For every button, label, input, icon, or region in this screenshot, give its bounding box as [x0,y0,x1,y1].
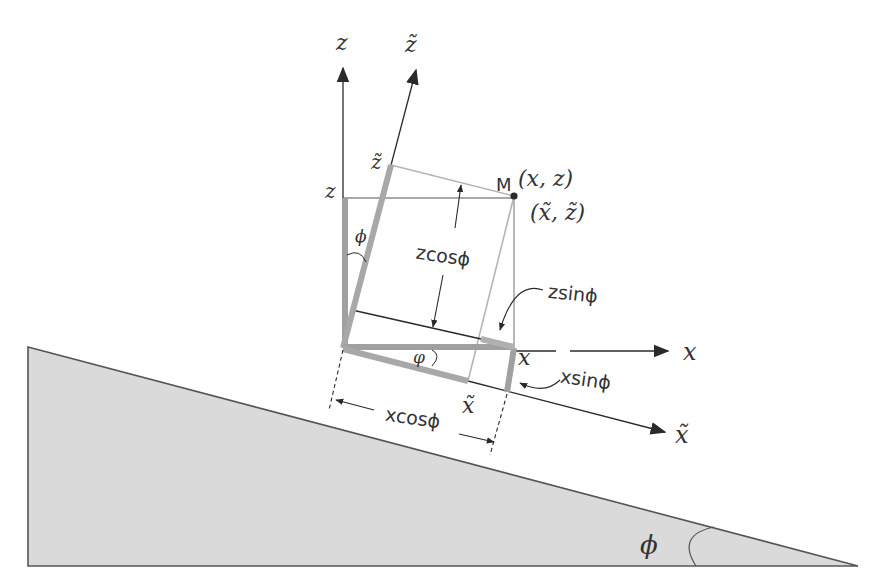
phi-top-label: ϕ [355,226,367,246]
x-point-label: x [518,345,531,370]
rotated-right-line [468,196,514,381]
z-cos-arrow-up [455,185,461,228]
M-coords-tilde-label: (x̃, z̃) [530,200,585,225]
z-sin-reference-line [352,310,481,339]
x-cos-phi-label: xcosϕ [384,403,442,432]
x-sin-phi-label: xsinϕ [559,365,613,394]
phi-bottom-label: φ [413,347,425,367]
x-tilde-axis-label: x̃ [675,421,689,449]
z-point-label: z [324,179,336,203]
x-tilde-axis [468,381,665,432]
z-sin-phi-label: zsinϕ [547,280,599,307]
x-tilde-point-label: x̃ [462,393,475,418]
M-coords-label: (x, z) [518,166,573,191]
z-tilde-segment [343,165,391,348]
z-tilde-point-label: z̃ [370,150,382,174]
x-cos-arrow-right [459,434,494,442]
x-sin-segment [507,348,514,392]
x-sin-callout-arrow [520,380,560,388]
z-tilde-axis-label: z̃ [404,32,417,57]
rotation-diagram: ϕ z z̃ z z̃ x x̃ x x̃ M (x, z) (x̃, z̃) [0,0,889,585]
angle-arc-bottom [432,350,437,366]
x-cos-arrow-left [336,400,374,410]
wedge-angle-label: ϕ [640,530,658,560]
z-sin-callout-arrow [500,288,543,330]
incline-wedge [28,347,858,566]
x-axis-label: x [683,338,697,366]
z-cos-arrow-down [433,275,443,327]
x-tilde-segment [343,349,468,381]
dashed-right [490,394,507,455]
point-M-label: M [496,174,512,195]
z-cos-phi-label: zcosϕ [415,241,472,270]
z-axis-label: z [335,30,348,55]
